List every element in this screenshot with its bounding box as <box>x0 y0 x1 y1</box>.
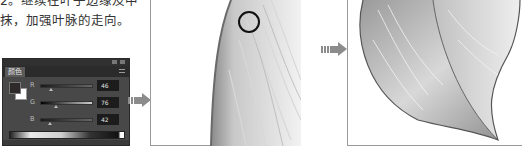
slider-thumb[interactable] <box>48 122 52 125</box>
arrow-right-icon <box>128 93 152 108</box>
slider-thumb[interactable] <box>54 105 58 108</box>
caption-line-1: 2。继续在叶子边缘及中 <box>0 0 145 11</box>
foreground-color-swatch[interactable] <box>9 82 21 94</box>
caption-line-2: 抹，加强叶脉的走向。 <box>0 11 145 31</box>
instruction-caption: 2。继续在叶子边缘及中 抹，加强叶脉的走向。 <box>0 0 145 31</box>
channel-slider-g[interactable] <box>40 101 93 105</box>
collapse-icon[interactable] <box>112 60 117 64</box>
color-panel: 颜色 R 46 G 76 B 42 <box>2 58 130 146</box>
channel-value-r[interactable]: 46 <box>97 80 119 91</box>
canvas-detail-view <box>150 0 300 146</box>
canvas-result-view <box>347 0 522 146</box>
shaded-leaf-drawing <box>348 0 522 146</box>
panel-menu-icon[interactable] <box>119 69 125 73</box>
leaf-edge-closeup <box>151 0 301 146</box>
panel-tab-bar: 颜色 <box>3 66 129 77</box>
channel-label: B <box>30 115 34 123</box>
channel-value-b[interactable]: 42 <box>97 114 119 125</box>
panel-bottom-bar <box>3 140 129 145</box>
color-spectrum-bar[interactable] <box>9 131 125 139</box>
channel-value-g[interactable]: 76 <box>97 97 119 108</box>
slider-thumb[interactable] <box>49 88 53 91</box>
arrow-right-icon <box>321 42 347 57</box>
panel-title-bar[interactable] <box>3 59 129 66</box>
channel-label: R <box>30 81 35 89</box>
channel-label: G <box>30 98 35 106</box>
channel-row-r: R 46 <box>30 80 128 94</box>
close-icon[interactable] <box>120 60 125 64</box>
channel-slider-r[interactable] <box>40 84 93 88</box>
channel-row-g: G 76 <box>30 97 128 111</box>
tab-color[interactable]: 颜色 <box>5 67 25 77</box>
channel-row-b: B 42 <box>30 114 128 128</box>
